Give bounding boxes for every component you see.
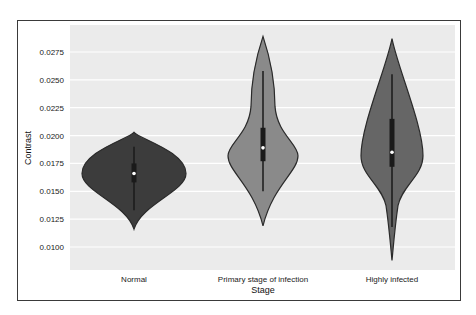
- y-tick-label: 0.0175: [40, 159, 65, 168]
- median-dot: [261, 146, 265, 150]
- x-tick-label: Highly infected: [366, 275, 418, 284]
- y-tick-label: 0.0100: [40, 243, 65, 252]
- y-tick-label: 0.0125: [40, 215, 65, 224]
- y-axis-label: Contrast: [23, 130, 33, 165]
- x-axis-categories: NormalPrimary stage of infectionHighly i…: [121, 275, 418, 284]
- iqr-box: [390, 119, 395, 167]
- median-dot: [132, 172, 136, 176]
- y-tick-label: 0.0250: [40, 76, 65, 85]
- iqr-box: [261, 128, 266, 161]
- y-axis-ticks: 0.01000.01250.01500.01750.02000.02250.02…: [40, 48, 65, 252]
- x-tick-label: Primary stage of infection: [218, 275, 308, 284]
- y-tick-label: 0.0150: [40, 187, 65, 196]
- violin-chart: 0.01000.01250.01500.01750.02000.02250.02…: [0, 0, 476, 315]
- y-tick-label: 0.0200: [40, 132, 65, 141]
- median-dot: [390, 150, 394, 154]
- x-axis-label: Stage: [251, 285, 275, 295]
- y-tick-label: 0.0225: [40, 104, 65, 113]
- y-tick-label: 0.0275: [40, 48, 65, 57]
- x-tick-label: Normal: [121, 275, 147, 284]
